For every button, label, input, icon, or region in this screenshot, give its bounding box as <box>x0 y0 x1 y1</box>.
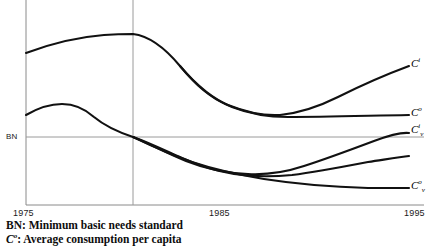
x-tick-1995: 1995 <box>404 208 425 218</box>
series-label-c-o-sup: o <box>418 105 422 113</box>
x-tick-1975: 1975 <box>13 208 34 218</box>
caption-co-text: : Average consumption per capita <box>17 233 181 245</box>
series-label-c-v-i: Civ <box>411 123 423 135</box>
caption-bn-key: BN: <box>6 219 26 231</box>
series-curve-c-o-branch <box>180 66 409 117</box>
chart-caption: BN: Minimum basic needs standard Co: Ave… <box>6 219 426 246</box>
x-tick-1985: 1985 <box>209 208 230 218</box>
series-label-c-o: Co <box>411 106 422 118</box>
caption-line-co: Co: Average consumption per capita <box>6 233 426 246</box>
caption-co-base: C <box>6 233 14 245</box>
series-label-c-i: Ci <box>411 57 420 69</box>
series-curve-c-o <box>26 104 409 176</box>
bn-axis-label: BN <box>6 132 18 141</box>
series-label-c-v-o: Cov <box>411 179 425 191</box>
series-label-c-v-o-sub: v <box>422 186 425 194</box>
series-label-c-i-sup: i <box>418 56 420 64</box>
caption-line-bn: BN: Minimum basic needs standard <box>6 219 426 233</box>
series-label-c-v-i-sub: v <box>420 130 423 138</box>
caption-bn-text: Minimum basic needs standard <box>29 219 183 231</box>
series-curve-c-i <box>26 34 409 115</box>
caption-co-symbol: Co <box>6 233 17 245</box>
